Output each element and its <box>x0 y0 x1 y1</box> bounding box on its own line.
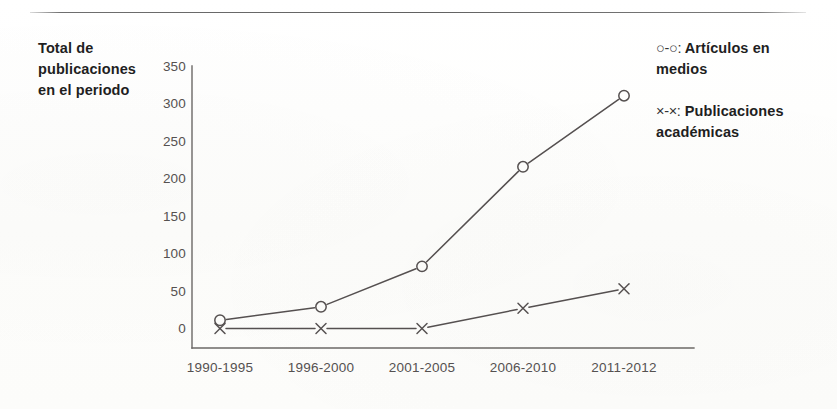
series-segment <box>529 290 618 307</box>
data-point-circle-marker <box>518 162 528 172</box>
x-axis-category-label: 1996-2000 <box>275 360 367 375</box>
y-axis-tick-label: 250 <box>148 134 186 149</box>
y-axis-tick-label: 100 <box>148 246 186 261</box>
x-axis-category-label: 2001-2005 <box>376 360 468 375</box>
series-segment <box>226 308 314 320</box>
line-chart: 0501001502002503003501990-19951996-20002… <box>0 0 837 409</box>
data-point-circle-marker <box>316 302 326 312</box>
series-segment <box>327 269 416 305</box>
x-axis-category-label: 1990-1995 <box>174 360 266 375</box>
y-axis-tick-label: 50 <box>148 284 186 299</box>
x-axis-category-label: 2006-2010 <box>477 360 569 375</box>
y-axis-tick-label: 150 <box>148 209 186 224</box>
data-point-circle-marker <box>417 261 427 271</box>
chart-canvas <box>0 0 837 409</box>
series-segment <box>528 99 618 163</box>
series-segment <box>428 309 517 327</box>
chart-series-articulos <box>215 90 629 325</box>
series-segment <box>427 171 519 261</box>
x-axis-category-label: 2011-2012 <box>578 360 670 375</box>
y-axis-tick-label: 300 <box>148 96 186 111</box>
y-axis-tick-label: 350 <box>148 59 186 74</box>
y-axis-tick-label: 0 <box>148 321 186 336</box>
chart-series-academicas <box>215 284 629 334</box>
data-point-circle-marker <box>619 90 629 100</box>
y-axis-tick-label: 200 <box>148 171 186 186</box>
